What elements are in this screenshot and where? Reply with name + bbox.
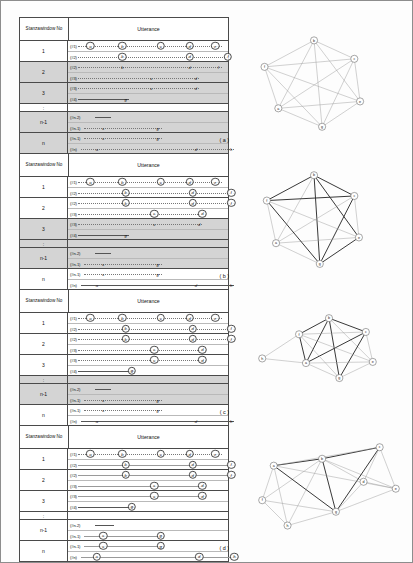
- graph-node-label: g: [335, 510, 337, 514]
- stanza-label: :: [20, 376, 68, 383]
- utterance-token: d: [188, 65, 190, 70]
- stanza-graph: bcegaf: [253, 23, 405, 143]
- utterance-token-circled: a: [86, 42, 94, 50]
- graph-edge: [278, 108, 322, 126]
- utterance-row: [68, 376, 228, 383]
- stanza-label: n: [20, 541, 68, 561]
- utterance-id: (#1): [70, 44, 77, 49]
- column-header-stanza-line: window No: [40, 298, 62, 304]
- panel-d: Stanzawindow NoUtterance1(#1)abcde(#2)bd…: [1, 425, 413, 555]
- utterance-lines: (#3)cd(#4)g: [68, 219, 228, 239]
- stanza-label: n: [20, 405, 68, 425]
- utterance-token: a: [96, 418, 98, 423]
- utterance-row: (#4)g: [68, 93, 228, 103]
- stanza-label: :: [20, 104, 68, 111]
- stanza-group: n-1(#n-2)(#n-1)cg: [20, 520, 228, 541]
- utterance-token-circled: c: [157, 450, 165, 458]
- utterance-token: h: [230, 282, 232, 287]
- panel-c: Stanzawindow NoUtterance1(#1)abcde(#2)bd…: [1, 289, 413, 419]
- graph-edge: [322, 459, 336, 512]
- utterance-token-circled: b: [121, 324, 129, 332]
- utterance-token: a: [96, 146, 98, 151]
- graph-node: g: [332, 508, 339, 515]
- utterance-token-circled: d: [185, 42, 193, 50]
- utterance-id: (#1): [70, 316, 77, 321]
- utterance-token-circled: d: [189, 471, 197, 479]
- stanza-group: 3(#3)cd(#4)g: [20, 83, 228, 104]
- utterance-token: c: [153, 222, 155, 227]
- stanza-group: 1(#1)abcde(#2)bdf: [20, 313, 228, 334]
- utterance-bar: [78, 486, 206, 487]
- stanza-label: n-1: [20, 112, 68, 132]
- utterance-bar: [78, 329, 235, 330]
- utterance-token-circled: e: [211, 42, 219, 50]
- graph-node: h: [259, 355, 266, 362]
- graph-edge: [265, 67, 323, 127]
- utterance-row: (#3)cd: [68, 72, 228, 82]
- utterance-token-circled: c: [150, 481, 158, 489]
- graph-edge: [329, 318, 366, 332]
- utterance-token: c: [102, 397, 104, 402]
- panel-caption: ( c ): [19, 409, 229, 415]
- utterance-id: (#n-1): [70, 533, 80, 538]
- utterance-token-circled: f: [224, 52, 232, 60]
- utterance-lines: (#3)cd(#4)g: [68, 491, 228, 511]
- graph-node: a: [270, 462, 277, 469]
- stanza-label: 3: [20, 219, 68, 239]
- column-header-stanza: Stanzawindow No: [20, 290, 69, 312]
- utterance-row: (#2)bdf: [68, 459, 228, 469]
- utterance-token-circled: f: [227, 324, 235, 332]
- utterance-bar: [78, 46, 222, 47]
- utterance-row: [68, 104, 228, 111]
- utterance-bar: [84, 264, 162, 265]
- graph-node-label: g: [321, 125, 323, 129]
- graph-node: f: [295, 331, 302, 338]
- graph-node: b: [325, 315, 332, 322]
- graph-edge: [314, 40, 322, 126]
- utterance-id: (#n-2): [70, 115, 80, 120]
- utterance-bar: [78, 350, 206, 351]
- utterance-lines: (#2)bdf(#3)cd: [68, 470, 228, 490]
- utterance-row: (#n)adh: [68, 551, 228, 561]
- graph-edge: [262, 466, 274, 501]
- utterance-token: d: [198, 222, 200, 227]
- utterance-row: (#n)adh: [68, 415, 228, 425]
- utterance-id: (#4): [70, 504, 77, 509]
- utterance-token: g: [124, 96, 126, 101]
- utterance-id: (#2): [70, 326, 77, 331]
- graph-edge: [276, 243, 320, 264]
- utterance-lines: (#3)cd(#4)g: [68, 83, 228, 103]
- stanza-group: n(#n-1)cg(#n)adh: [20, 133, 228, 153]
- utterance-lines: (#n-2)(#n-1)cg: [68, 384, 228, 404]
- graph-node-label: b: [313, 173, 315, 177]
- utterance-bar: [78, 475, 235, 476]
- graph-node: f: [263, 197, 270, 204]
- utterance-bar: [78, 371, 136, 372]
- utterance-token-circled: b: [121, 460, 129, 468]
- utterance-token-circled: b: [118, 450, 126, 458]
- utterance-row: (#n-2): [68, 248, 228, 258]
- graph-node: c: [351, 192, 358, 199]
- utterance-id: (#3): [70, 483, 77, 488]
- graph-node: c: [362, 328, 369, 335]
- stanza-label: 2: [20, 62, 68, 82]
- utterance-lines: [68, 104, 228, 111]
- graph-node: a: [275, 105, 282, 112]
- graph-edge: [322, 59, 354, 127]
- utterance-row: [68, 240, 228, 247]
- column-header-utterance: Utterance: [69, 18, 228, 40]
- utterance-id: (#n): [70, 554, 77, 559]
- stanza-group: n-1(#n-2)(#n-1)cg: [20, 248, 228, 269]
- utterance-token: d: [195, 282, 197, 287]
- utterance-row: (#3)cd: [68, 491, 228, 501]
- utterance-lines: (#n-2)(#n-1)cg: [68, 248, 228, 268]
- utterance-token-circled: g: [128, 366, 136, 374]
- utterance-row: (#4)g: [68, 501, 228, 511]
- graph-edge: [336, 489, 396, 512]
- utterance-row: (#2)bdf: [68, 334, 228, 344]
- graph-edge: [288, 459, 323, 526]
- utterance-token-circled: b: [118, 42, 126, 50]
- stanza-group: 1(#1)abcde(#2)bdf: [20, 177, 228, 198]
- utterance-bar: [95, 253, 111, 254]
- utterance-token-circled: b: [118, 314, 126, 322]
